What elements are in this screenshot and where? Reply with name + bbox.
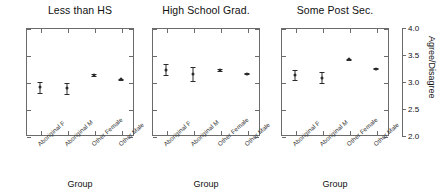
y-tick-label: 2.0	[408, 132, 419, 141]
error-bar-cap	[319, 72, 324, 73]
y-tick	[402, 109, 406, 110]
y-tick	[282, 110, 286, 111]
error-bar-cap	[319, 83, 324, 84]
panel-title: Some Post Sec.	[271, 4, 399, 16]
x-axis-title: Group	[271, 179, 399, 189]
y-tick	[282, 137, 286, 138]
data-point	[374, 67, 377, 70]
error-bar-cap	[292, 70, 297, 71]
x-tick	[296, 131, 297, 135]
y-tick	[402, 55, 406, 56]
y-tick	[282, 83, 286, 84]
y-tick-label: 3.0	[408, 78, 419, 87]
y-tick	[282, 56, 286, 57]
y-tick	[402, 82, 406, 83]
data-point	[293, 73, 296, 76]
error-bar-cap	[292, 80, 297, 81]
y-tick-label: 4.0	[408, 24, 419, 33]
x-tick	[296, 29, 297, 33]
data-point	[347, 58, 350, 61]
y-tick	[282, 29, 286, 30]
x-tick	[377, 131, 378, 135]
data-point	[320, 76, 323, 79]
x-tick	[350, 131, 351, 135]
y-tick	[384, 29, 388, 30]
y-tick-label: 2.5	[408, 105, 419, 114]
x-tick	[350, 29, 351, 33]
y-tick	[402, 136, 406, 137]
y-tick	[402, 28, 406, 29]
y-tick-label: 3.5	[408, 51, 419, 60]
y-tick	[384, 110, 388, 111]
x-tick	[323, 131, 324, 135]
y-axis-title: Agree/Disagree	[427, 36, 437, 99]
y-tick	[384, 83, 388, 84]
x-tick	[323, 29, 324, 33]
y-tick	[384, 56, 388, 57]
x-tick	[377, 29, 378, 33]
